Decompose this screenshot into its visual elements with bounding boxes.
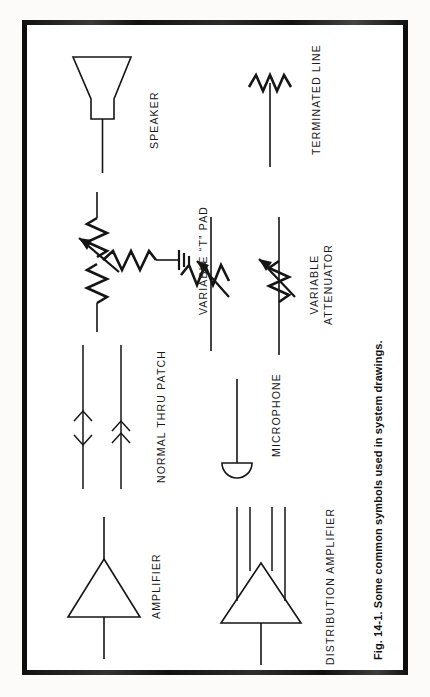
symbol-distribution-amplifier bbox=[209, 503, 329, 668]
symbol-terminated-line bbox=[245, 63, 305, 173]
scan-page: SPEAKER TERMINATED LINE bbox=[0, 0, 430, 697]
label-variable-attenuator: VARIABLE ATTENUATOR bbox=[308, 244, 335, 325]
figure-border-frame: SPEAKER TERMINATED LINE bbox=[22, 20, 408, 675]
symbol-microphone bbox=[203, 377, 273, 507]
label-variable-attenuator-line2: ATTENUATOR bbox=[322, 244, 336, 325]
symbol-amplifier bbox=[52, 513, 162, 663]
speaker-horn-icon bbox=[67, 47, 137, 177]
figure-caption: Fig. 14-1. Some common symbols used in s… bbox=[372, 340, 384, 660]
variable-attenuator-icon bbox=[235, 215, 315, 360]
amplifier-triangle-icon bbox=[52, 513, 162, 663]
label-microphone: MICROPHONE bbox=[270, 373, 283, 457]
label-normal-thru-patch: NORMAL THRU PATCH bbox=[155, 350, 168, 483]
symbol-variable-attenuator bbox=[235, 215, 315, 360]
label-variable-attenuator-line1: VARIABLE bbox=[308, 244, 322, 325]
symbol-speaker bbox=[67, 47, 137, 177]
symbol-normal-thru-patch bbox=[55, 343, 165, 493]
resistor-zigzag-icon bbox=[245, 63, 305, 173]
microphone-icon bbox=[203, 377, 273, 507]
distribution-amplifier-icon bbox=[209, 503, 329, 668]
label-terminated-line: TERMINATED LINE bbox=[310, 44, 323, 155]
patch-arrows-icon bbox=[55, 343, 165, 493]
label-amplifier: AMPLIFIER bbox=[150, 553, 163, 619]
label-speaker: SPEAKER bbox=[148, 91, 161, 149]
label-distribution-amplifier: DISTRIBUTION AMPLIFIER bbox=[324, 508, 337, 665]
